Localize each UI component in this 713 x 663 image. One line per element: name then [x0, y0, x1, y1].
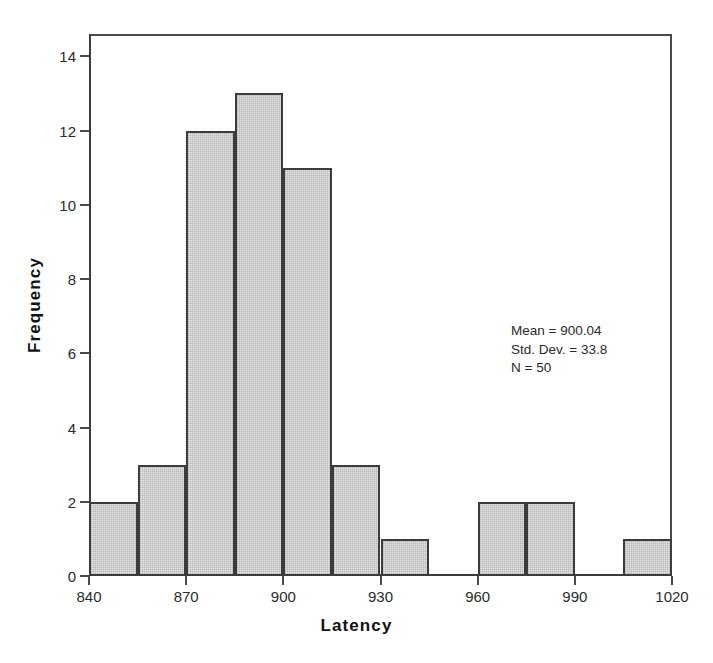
x-tick-label: 840	[76, 588, 101, 605]
y-tick-mark	[80, 204, 89, 206]
y-tick-label: 6	[68, 345, 76, 362]
histogram-bars	[89, 34, 672, 576]
x-tick-label: 900	[271, 588, 296, 605]
y-tick-label: 10	[59, 196, 76, 213]
y-axis-title: Frequency	[18, 34, 52, 576]
y-tick-label: 14	[59, 48, 76, 65]
x-tick-mark	[282, 576, 284, 585]
x-tick-mark	[671, 576, 673, 585]
histogram-bar	[478, 502, 527, 576]
x-tick-mark	[574, 576, 576, 585]
x-tick-label: 1020	[655, 588, 688, 605]
histogram-chart: 8408709009309609901020 02468101214 Laten…	[0, 0, 713, 663]
histogram-bar	[332, 465, 381, 576]
y-tick-mark	[80, 575, 89, 577]
y-tick-mark	[80, 352, 89, 354]
stats-annotation: Mean = 900.04 Std. Dev. = 33.8 N = 50	[511, 322, 607, 378]
histogram-bar	[89, 502, 138, 576]
stats-n: N = 50	[511, 359, 607, 378]
y-tick-label: 4	[68, 419, 76, 436]
stats-stddev: Std. Dev. = 33.8	[511, 341, 607, 360]
y-tick-label: 8	[68, 271, 76, 288]
histogram-bar	[186, 131, 235, 576]
y-tick-mark	[80, 130, 89, 132]
y-tick-mark	[80, 55, 89, 57]
x-tick-mark	[380, 576, 382, 585]
y-tick-label: 0	[68, 568, 76, 585]
histogram-bar	[381, 539, 430, 576]
histogram-bar	[526, 502, 575, 576]
x-tick-label: 960	[465, 588, 490, 605]
x-tick-mark	[88, 576, 90, 585]
y-tick-label: 2	[68, 493, 76, 510]
x-tick-label: 990	[562, 588, 587, 605]
y-axis-line	[89, 34, 91, 576]
x-tick-label: 870	[174, 588, 199, 605]
x-tick-label: 930	[368, 588, 393, 605]
histogram-bar	[283, 168, 332, 576]
histogram-bar	[235, 93, 284, 576]
y-tick-label: 12	[59, 122, 76, 139]
x-tick-mark	[477, 576, 479, 585]
x-tick-mark	[185, 576, 187, 585]
stats-mean: Mean = 900.04	[511, 322, 607, 341]
y-tick-mark	[80, 501, 89, 503]
histogram-bar	[623, 539, 672, 576]
histogram-bar	[138, 465, 187, 576]
y-tick-mark	[80, 427, 89, 429]
y-tick-mark	[80, 278, 89, 280]
x-axis-title: Latency	[0, 616, 713, 636]
